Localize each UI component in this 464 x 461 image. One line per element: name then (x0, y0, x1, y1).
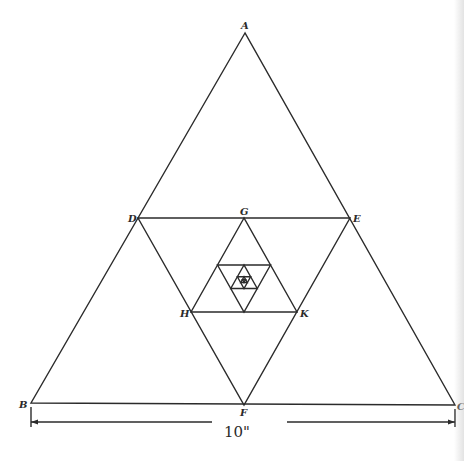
vertex-label-f: F (239, 407, 248, 418)
vertex-label-a: A (240, 20, 249, 31)
vertex-label-d: D (127, 213, 137, 224)
diagram-canvas: 10" A B C D E F G H K (0, 0, 464, 461)
arrowhead-left-icon (31, 420, 38, 425)
dimension-label: 10" (224, 423, 250, 441)
vertex-label-h: H (179, 308, 190, 319)
vertex-label-k: K (299, 308, 310, 319)
page-gutter-shadow (454, 0, 464, 461)
vertex-label-b: B (18, 399, 27, 410)
vertex-label-e: E (352, 213, 361, 224)
vertex-label-g: G (240, 206, 249, 217)
